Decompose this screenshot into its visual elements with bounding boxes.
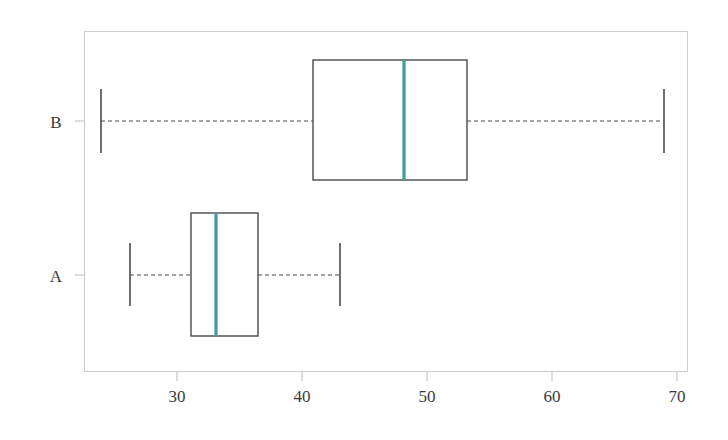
y-axis-category-labels: B A [50, 113, 63, 286]
box-b [313, 60, 467, 180]
boxplot-svg: 30 40 50 60 70 B A [0, 0, 728, 440]
y-category-label-b: B [50, 113, 61, 132]
box-a [191, 213, 258, 336]
x-axis-ticks [177, 372, 677, 381]
x-axis-tick-labels: 30 40 50 60 70 [169, 387, 686, 406]
x-tick-label-40: 40 [294, 387, 311, 406]
y-category-label-a: A [50, 267, 63, 286]
x-tick-label-70: 70 [669, 387, 686, 406]
y-axis-ticks [75, 121, 84, 275]
boxplot-chart: 30 40 50 60 70 B A [0, 0, 728, 440]
x-tick-label-30: 30 [169, 387, 186, 406]
x-tick-label-50: 50 [419, 387, 436, 406]
x-tick-label-60: 60 [544, 387, 561, 406]
